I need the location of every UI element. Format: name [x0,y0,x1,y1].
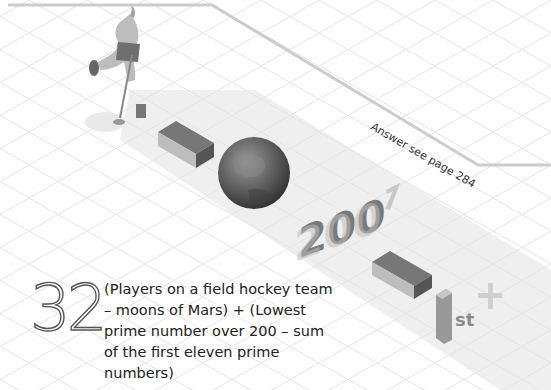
puzzle-page: 200 200 st Answer see page 284 32 (Playe… [0,0,551,390]
puzzle-number: 32 [30,276,103,340]
puzzle-question: (Players on a field hockey team – moons … [104,279,339,384]
mars-planet-illustration [218,137,290,209]
svg-text:st: st [455,309,475,330]
